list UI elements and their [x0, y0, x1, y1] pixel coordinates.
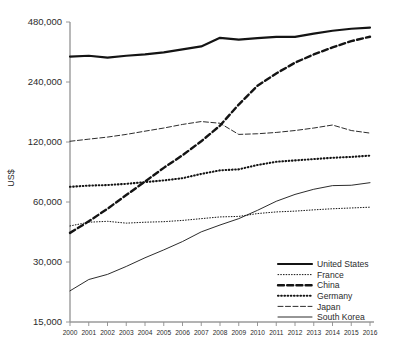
x-axis-group: 2000200120022003200420052006200720082009… [63, 322, 378, 336]
x-tick-label: 2005 [156, 329, 171, 336]
x-tick-label: 2008 [213, 329, 228, 336]
x-tick-label: 2010 [250, 329, 265, 336]
x-tick-label: 2015 [344, 329, 359, 336]
x-tick-label: 2016 [363, 329, 378, 336]
x-tick-label: 2003 [119, 329, 134, 336]
x-axis-tick-labels: 2000200120022003200420052006200720082009… [63, 329, 378, 336]
line-chart: 480,000240,000120,00060,00030,00015,000 … [0, 0, 400, 356]
x-tick-label: 2000 [63, 329, 78, 336]
legend-label-japan: Japan [317, 302, 341, 312]
y-tick-label: 120,000 [28, 136, 62, 147]
x-tick-label: 2013 [306, 329, 321, 336]
series-line-france [70, 207, 370, 226]
y-tick-label: 30,000 [33, 256, 62, 267]
y-tick-label: 15,000 [33, 316, 62, 327]
y-tick-label: 60,000 [33, 196, 62, 207]
x-tick-label: 2006 [175, 329, 190, 336]
chart-canvas: 480,000240,000120,00060,00030,00015,000 … [0, 0, 400, 356]
y-axis-title: US$ [6, 169, 16, 187]
x-tick-label: 2011 [269, 329, 284, 336]
x-tick-label: 2007 [194, 329, 209, 336]
series-line-china [70, 37, 370, 233]
series-line-germany [70, 156, 370, 187]
legend-label-south-korea: South Korea [317, 312, 365, 322]
y-tick-label: 480,000 [28, 16, 62, 27]
x-tick-label: 2002 [100, 329, 115, 336]
y-axis-tick-labels: 480,000240,000120,00060,00030,00015,000 [28, 16, 62, 327]
y-axis-group: 480,000240,000120,00060,00030,00015,000 [28, 16, 70, 327]
x-tick-label: 2009 [231, 329, 246, 336]
series-line-united-states [70, 28, 370, 58]
legend-label-united-states: United States [317, 259, 369, 269]
x-tick-label: 2004 [138, 329, 153, 336]
legend-label-germany: Germany [317, 291, 353, 301]
x-tick-label: 2014 [325, 329, 340, 336]
x-tick-label: 2001 [81, 329, 96, 336]
series-lines [70, 28, 370, 291]
chart-legend: United StatesFranceChinaGermanyJapanSout… [278, 259, 369, 322]
y-tick-label: 240,000 [28, 76, 62, 87]
legend-label-china: China [317, 280, 340, 290]
legend-label-france: France [317, 270, 344, 280]
x-tick-label: 2012 [288, 329, 303, 336]
